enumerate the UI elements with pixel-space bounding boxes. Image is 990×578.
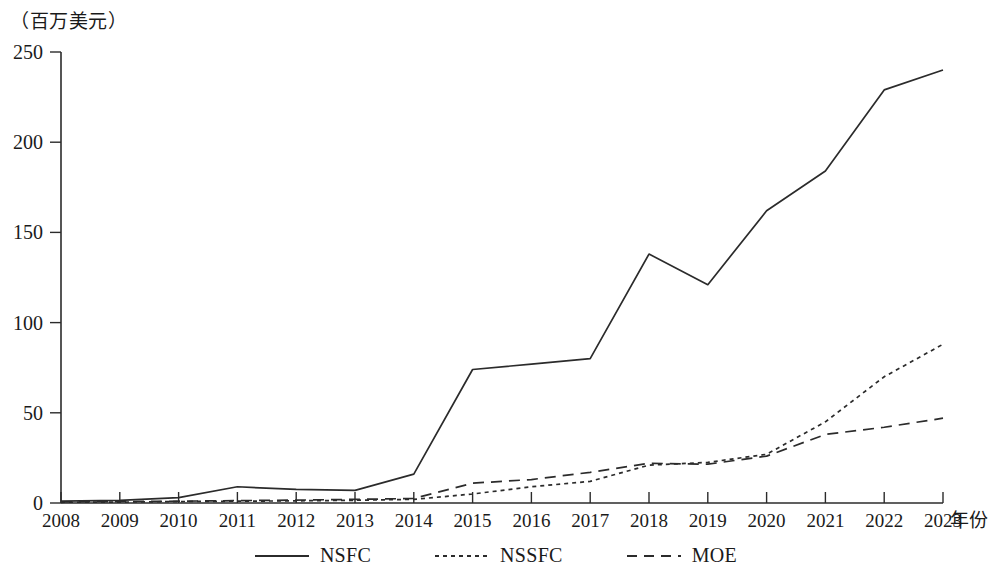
series-line-moe	[61, 418, 943, 502]
x-tick-label: 2008	[42, 510, 80, 531]
series-group	[61, 70, 943, 502]
x-tick-label: 2016	[512, 510, 550, 531]
y-tick-label: 100	[13, 312, 43, 334]
y-tick-group: 050100150200250	[13, 41, 61, 514]
x-tick-label: 2021	[806, 510, 844, 531]
x-tick-label: 2019	[689, 510, 727, 531]
chart-container: （百万美元） 050100150200250 20082009201020112…	[0, 0, 990, 578]
x-tick-label: 2014	[395, 510, 434, 531]
x-tick-label: 2010	[160, 510, 198, 531]
x-tick-label: 2017	[571, 510, 609, 531]
x-axis-title: 年份	[950, 510, 988, 531]
legend-item-nssfc[interactable]: NSSFC	[433, 544, 563, 567]
x-tick-label: 2022	[865, 510, 903, 531]
chart-legend: NSFC NSSFC MOE	[0, 544, 990, 567]
legend-label-moe: MOE	[692, 544, 737, 567]
x-tick-label: 2012	[277, 510, 315, 531]
y-tick-label: 50	[23, 402, 43, 424]
chart-plot-area: 050100150200250 200820092010201120122013…	[0, 0, 990, 578]
legend-swatch-dashed	[625, 549, 683, 563]
legend-label-nssfc: NSSFC	[500, 544, 563, 567]
x-tick-label: 2015	[454, 510, 492, 531]
y-tick-label: 200	[13, 131, 43, 153]
x-tick-label: 2018	[630, 510, 668, 531]
series-line-nssfc	[61, 344, 943, 502]
x-tick-label: 2011	[219, 510, 256, 531]
legend-swatch-solid	[253, 549, 311, 563]
x-tick-label: 2013	[336, 510, 374, 531]
x-tick-label: 2009	[101, 510, 139, 531]
series-line-nsfc	[61, 70, 943, 501]
x-tick-label: 2020	[748, 510, 786, 531]
y-tick-label: 250	[13, 41, 43, 63]
legend-item-nsfc[interactable]: NSFC	[253, 544, 371, 567]
legend-label-nsfc: NSFC	[320, 544, 371, 567]
x-axis: 2008200920102011201220132014201520162017…	[42, 492, 988, 531]
legend-item-moe[interactable]: MOE	[625, 544, 737, 567]
y-axis: 050100150200250	[13, 41, 61, 514]
legend-swatch-dotted	[433, 549, 491, 563]
y-tick-label: 150	[13, 221, 43, 243]
